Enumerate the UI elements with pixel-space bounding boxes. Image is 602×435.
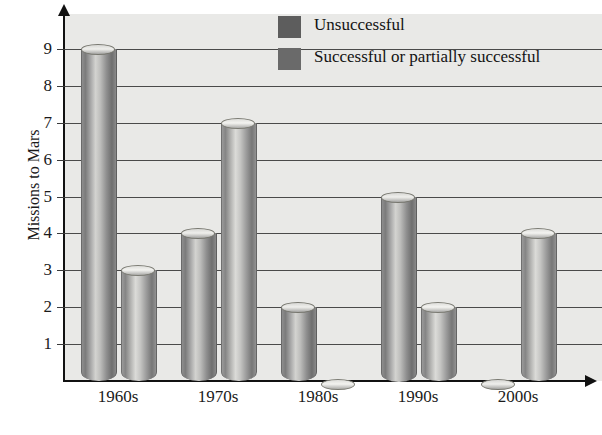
bar-body [381,197,417,382]
gridline [65,86,602,87]
bar-body [421,307,457,381]
gridline [65,123,602,124]
legend-swatch [278,16,301,38]
bar-2000s-unsuccessful [481,374,515,386]
bar-body [281,307,317,381]
y-tick-label: 5 [30,188,52,205]
y-axis-line [63,14,65,382]
bar-1990s-successful [421,307,455,381]
y-tick-mark [57,197,65,198]
legend-label: Successful or partially successful [314,47,540,67]
bar-1960s-successful [121,270,155,381]
y-tick-mark [57,270,65,271]
y-tick-label: 8 [30,77,52,94]
bar-2000s-successful [521,233,555,381]
x-tick-label: 2000s [478,388,558,405]
bar-1990s-unsuccessful [381,197,415,382]
y-tick-mark [57,160,65,161]
bar-1980s-successful [321,374,355,386]
bar-1980s-unsuccessful [281,307,315,381]
bar-body [181,233,217,381]
y-tick-mark [57,86,65,87]
x-tick-label: 1990s [378,388,458,405]
y-axis-arrow-icon [58,4,70,16]
y-tick-mark [57,233,65,234]
y-tick-label: 6 [30,151,52,168]
bar-1960s-unsuccessful [81,49,115,381]
legend-swatch [278,48,301,70]
bar-body [221,123,257,381]
y-tick-mark [57,307,65,308]
y-tick-mark [57,49,65,50]
bar-top-cap [381,192,415,203]
bar-1970s-unsuccessful [181,233,215,381]
x-tick-label: 1960s [78,388,158,405]
x-axis-arrow-icon [585,375,597,387]
y-tick-label: 9 [30,40,52,57]
bar-top-cap [81,44,115,55]
bar-1970s-successful [221,123,255,381]
bar-body [521,233,557,381]
bar-top-cap [221,118,255,129]
y-tick-mark [57,344,65,345]
y-tick-label: 2 [30,298,52,315]
caption-fragment [4,424,284,434]
legend-label: Unsuccessful [314,15,405,35]
x-tick-label: 1970s [178,388,258,405]
y-tick-label: 3 [30,261,52,278]
bar-top-cap [521,228,555,239]
bar-body [81,49,117,381]
y-tick-label: 1 [30,335,52,352]
y-tick-mark [57,123,65,124]
bar-top-cap [121,265,155,276]
chart-figure: Missions to Mars 123456789 1960s1970s198… [0,0,602,435]
x-tick-label: 1980s [278,388,358,405]
gridline [65,160,602,161]
bar-top-cap [281,302,315,313]
bar-body [121,270,157,381]
y-tick-label: 7 [30,114,52,131]
bar-top-cap [421,302,455,313]
bar-top-cap [181,228,215,239]
y-tick-label: 4 [30,224,52,241]
gridline [65,197,602,198]
